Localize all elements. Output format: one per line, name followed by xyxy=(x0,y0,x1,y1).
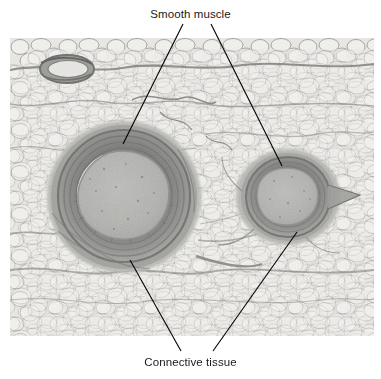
label-connective-tissue: Connective tissue xyxy=(0,356,381,368)
micrograph-image xyxy=(10,38,374,336)
micrograph-canvas xyxy=(10,38,374,336)
histology-figure: Smooth muscle xyxy=(0,0,381,379)
label-smooth-muscle: Smooth muscle xyxy=(0,8,381,20)
